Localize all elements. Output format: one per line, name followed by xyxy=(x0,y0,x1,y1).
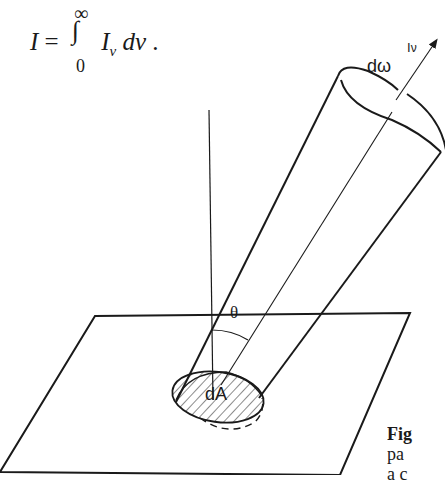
figure-caption: Fig pa a c xyxy=(387,424,445,484)
cylinder-right-edge xyxy=(259,152,441,398)
beam-axis xyxy=(221,112,392,385)
caption-line-2: pa xyxy=(387,444,445,464)
caption-line-3: a c xyxy=(387,464,445,484)
solid-angle-cap xyxy=(338,67,445,152)
intensity-label: Iν xyxy=(407,40,417,55)
surface-normal xyxy=(209,110,213,400)
cylinder-left-edge xyxy=(176,76,338,402)
area-label: dA xyxy=(205,384,227,405)
caption-fig: Fig xyxy=(387,424,412,444)
theta-arc xyxy=(212,330,248,340)
theta-label: θ xyxy=(230,303,238,323)
solid-angle-label: dω xyxy=(367,56,391,77)
